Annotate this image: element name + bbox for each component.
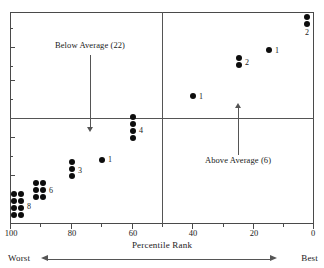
direction-worst-label: Worst bbox=[8, 253, 30, 263]
data-point bbox=[11, 198, 17, 204]
data-point bbox=[236, 62, 242, 68]
data-point bbox=[18, 212, 24, 218]
data-point bbox=[236, 55, 242, 61]
data-point bbox=[304, 21, 310, 27]
data-point bbox=[69, 166, 75, 172]
data-point bbox=[40, 194, 46, 200]
data-point bbox=[266, 47, 272, 53]
cluster-count-3: 3 bbox=[78, 166, 82, 175]
data-point bbox=[130, 128, 136, 134]
data-point bbox=[99, 157, 105, 163]
chart-canvas: 100 80 60 40 20 0 Percentile Rank 8 6 3 … bbox=[0, 0, 324, 268]
arrow-left-icon bbox=[41, 255, 48, 261]
data-point bbox=[33, 180, 39, 186]
ytick-5 bbox=[10, 99, 13, 100]
data-point bbox=[130, 135, 136, 141]
cluster-count-4: 4 bbox=[139, 126, 143, 135]
data-point bbox=[69, 173, 75, 179]
direction-best-label: Best bbox=[301, 253, 318, 263]
annotation-below-average-line bbox=[90, 55, 91, 127]
ytick-4 bbox=[10, 80, 15, 81]
data-point bbox=[190, 93, 196, 99]
data-point bbox=[18, 205, 24, 211]
ytick-8 bbox=[10, 175, 15, 176]
cluster-count-2b: 2 bbox=[305, 28, 309, 37]
cluster-count-1b: 1 bbox=[199, 92, 203, 101]
data-point bbox=[18, 191, 24, 197]
data-point bbox=[130, 114, 136, 120]
direction-scale: Worst Best bbox=[0, 252, 324, 266]
xtick-label-20: 20 bbox=[250, 228, 259, 238]
data-point bbox=[130, 121, 136, 127]
horizontal-reference-line bbox=[10, 118, 314, 119]
cluster-count-6: 6 bbox=[49, 186, 53, 195]
data-point bbox=[18, 198, 24, 204]
xtick-50 bbox=[162, 224, 163, 227]
xtick-30 bbox=[223, 224, 224, 227]
data-point bbox=[11, 205, 17, 211]
xtick-label-100: 100 bbox=[5, 228, 18, 238]
data-point bbox=[11, 212, 17, 218]
arrow-down-icon bbox=[87, 127, 93, 132]
cluster-count-2a: 2 bbox=[245, 58, 249, 67]
xtick-label-0: 0 bbox=[311, 228, 315, 238]
cluster-count-1c: 1 bbox=[275, 46, 279, 55]
data-point bbox=[69, 159, 75, 165]
xtick-label-60: 60 bbox=[129, 228, 138, 238]
xtick-label-80: 80 bbox=[68, 228, 77, 238]
ytick-6 bbox=[10, 137, 15, 138]
data-point bbox=[304, 14, 310, 20]
xtick-label-40: 40 bbox=[189, 228, 198, 238]
xtick-10 bbox=[283, 224, 284, 227]
data-point bbox=[33, 187, 39, 193]
ytick-3 bbox=[10, 66, 13, 67]
data-point bbox=[40, 180, 46, 186]
annotation-above-average-label: Above Average (6) bbox=[205, 155, 271, 165]
annotation-above-average-line bbox=[238, 108, 239, 155]
ytick-1 bbox=[10, 28, 13, 29]
arrow-right-icon bbox=[270, 255, 277, 261]
annotation-below-average-label: Below Average (22) bbox=[55, 40, 125, 50]
arrow-up-icon bbox=[235, 103, 241, 108]
ytick-7 bbox=[10, 156, 13, 157]
data-point bbox=[33, 194, 39, 200]
x-axis-title: Percentile Rank bbox=[0, 240, 324, 250]
xtick-70 bbox=[101, 224, 102, 227]
xtick-90 bbox=[40, 224, 41, 227]
direction-axis-line bbox=[48, 259, 270, 260]
cluster-count-1a: 1 bbox=[108, 155, 112, 164]
data-point bbox=[11, 191, 17, 197]
data-point bbox=[40, 187, 46, 193]
cluster-count-8: 8 bbox=[27, 202, 31, 211]
ytick-2 bbox=[10, 47, 15, 48]
